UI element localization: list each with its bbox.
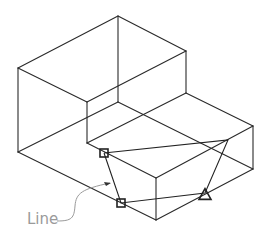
edge: [87, 51, 186, 102]
isometric-diagram: Line: [0, 0, 270, 238]
line-label: Line: [27, 210, 58, 228]
edge: [18, 16, 118, 68]
edge: [118, 16, 186, 51]
leader-line: [57, 183, 110, 221]
edge: [87, 93, 186, 143]
object-edges: [18, 16, 253, 220]
edge: [18, 68, 87, 102]
edge: [156, 169, 253, 220]
edge: [156, 126, 253, 178]
edge: [18, 102, 118, 152]
edge: [186, 93, 253, 126]
arrowhead-icon: [104, 182, 111, 186]
edge: [118, 102, 253, 169]
annotation: Line: [27, 182, 111, 228]
